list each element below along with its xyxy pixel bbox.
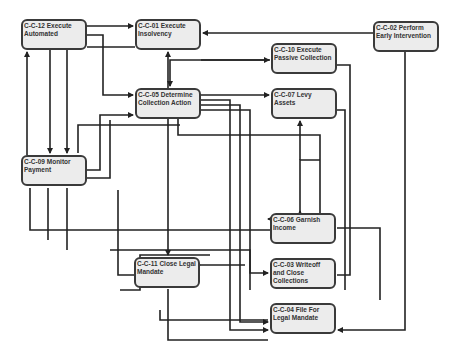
node-label: C-C-05 Determine Collection Action — [138, 91, 193, 106]
node-label: C-C-09 Monitor Payment — [24, 158, 71, 173]
node-c-c-01[interactable]: C-C-01 Execute Insolvency — [135, 19, 201, 50]
node-c-c-04[interactable]: C-C-04 File For Legal Mandate — [270, 303, 336, 334]
process-diagram: C-C-12 Execute Automated C-C-01 Execute … — [0, 0, 455, 349]
node-c-c-12[interactable]: C-C-12 Execute Automated — [21, 19, 87, 50]
node-label: C-C-03 Writeoff and Close Collections — [273, 261, 320, 284]
node-label: C-C-10 Execute Passive Collection — [274, 46, 331, 61]
node-c-c-11[interactable]: C-C-11 Close Legal Mandate — [134, 257, 200, 288]
node-c-c-05[interactable]: C-C-05 Determine Collection Action — [135, 88, 201, 119]
node-label: C-C-06 Garnish Income — [273, 216, 320, 231]
node-c-c-07[interactable]: C-C-07 Levy Assets — [271, 88, 337, 119]
node-c-c-06[interactable]: C-C-06 Garnish Income — [270, 213, 336, 244]
node-c-c-02[interactable]: C-C-02 Perform Early Intervention — [373, 21, 439, 52]
node-label: C-C-01 Execute Insolvency — [138, 22, 186, 37]
node-label: C-C-07 Levy Assets — [274, 91, 312, 106]
node-label: C-C-04 File For Legal Mandate — [273, 306, 319, 321]
node-c-c-03[interactable]: C-C-03 Writeoff and Close Collections — [270, 258, 336, 289]
node-c-c-09[interactable]: C-C-09 Monitor Payment — [21, 155, 87, 186]
node-label: C-C-11 Close Legal Mandate — [137, 260, 196, 275]
node-c-c-10[interactable]: C-C-10 Execute Passive Collection — [271, 43, 337, 74]
node-label: C-C-02 Perform Early Intervention — [376, 24, 431, 39]
node-label: C-C-12 Execute Automated — [24, 22, 72, 37]
